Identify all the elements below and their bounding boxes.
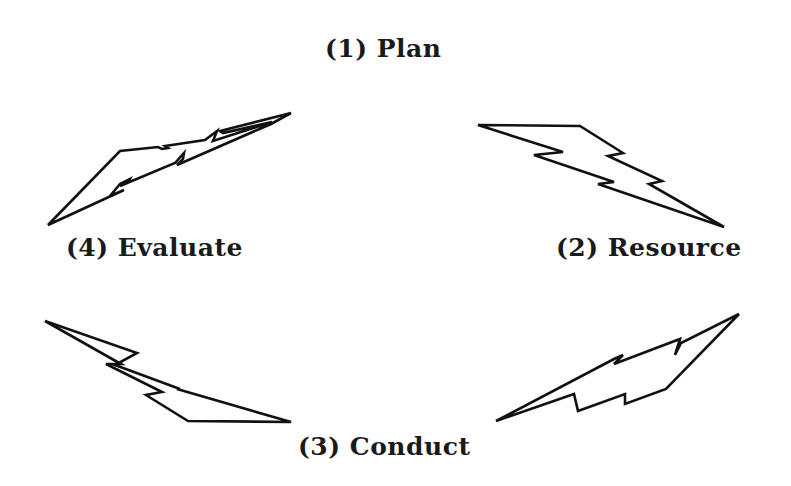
connector-bolts bbox=[0, 0, 791, 486]
lightning-bolt-icon bbox=[478, 125, 724, 227]
cycle-diagram: (1) Plan (2) Resource (3) Conduct (4) Ev… bbox=[0, 0, 791, 486]
lightning-bolt-icon bbox=[45, 321, 291, 422]
lightning-bolt-icon bbox=[496, 314, 739, 421]
lightning-bolt-icon bbox=[48, 113, 291, 225]
